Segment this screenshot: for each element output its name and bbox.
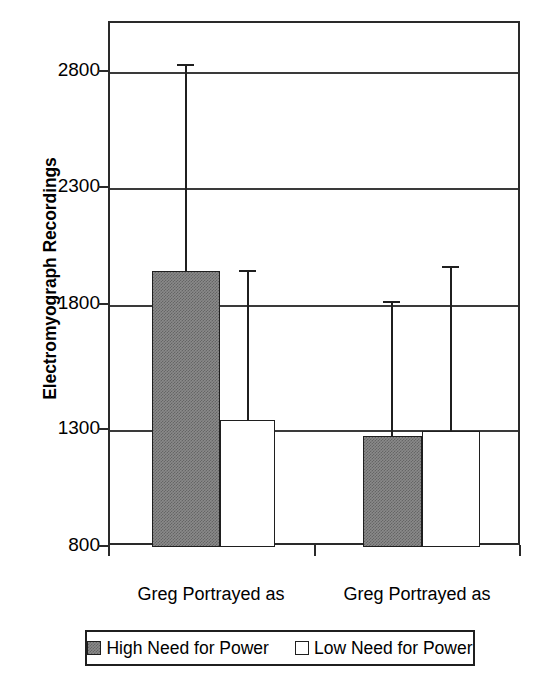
legend-label-high-need: High Need for Power: [106, 638, 268, 659]
x-tick-mark-left: [108, 545, 110, 556]
bar-compliant-high-need[interactable]: [363, 436, 422, 547]
gridline-2800: [110, 72, 518, 74]
gridline-2300: [110, 188, 518, 190]
x-category-label-compliant-line1: Greg Portrayed as: [314, 583, 520, 606]
x-tick-mark-middle: [314, 545, 316, 556]
y-tick-label-1300: 1300: [33, 417, 100, 439]
error-bar-cap-compliant-low-need: [442, 266, 459, 268]
error-bar-cap-compliant-high-need: [383, 301, 400, 303]
error-bar-cap-assertive-high-need: [177, 64, 194, 66]
legend-entry-low-need[interactable]: Low Need for Power: [295, 638, 473, 659]
bar-assertive-low-need[interactable]: [220, 420, 275, 547]
bar-assertive-high-need[interactable]: [152, 271, 220, 547]
x-category-label-assertive-line1: Greg Portrayed as: [108, 583, 314, 606]
error-bar-stem-assertive-high-need: [185, 64, 187, 271]
chart-legend: High Need for Power Low Need for Power: [85, 630, 475, 666]
legend-swatch-high-need-icon: [87, 641, 101, 655]
error-bar-stem-assertive-low-need: [247, 270, 249, 420]
error-bar-stem-compliant-low-need: [450, 266, 452, 431]
bar-compliant-low-need[interactable]: [422, 431, 480, 547]
legend-label-low-need: Low Need for Power: [314, 638, 473, 659]
y-tick-label-2800: 2800: [33, 59, 100, 81]
plot-area: [108, 21, 520, 545]
y-tick-label-800: 800: [40, 534, 100, 556]
legend-swatch-low-need-icon: [295, 641, 309, 655]
x-tick-mark-right: [519, 545, 521, 556]
error-bar-cap-assertive-low-need: [239, 270, 256, 272]
y-tick-label-2300: 2300: [33, 175, 100, 197]
error-bar-stem-compliant-high-need: [391, 301, 393, 436]
y-tick-label-1800: 1800: [33, 292, 100, 314]
legend-entry-high-need[interactable]: High Need for Power: [87, 638, 268, 659]
chart-figure: Electromyograph Recordings 800 1300 1800…: [0, 0, 557, 685]
